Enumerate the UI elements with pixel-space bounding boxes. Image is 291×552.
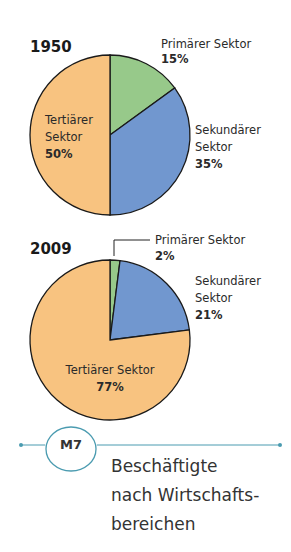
- label-tertiary-1950-line1: Tertiärer: [44, 113, 93, 127]
- pct-primary-2009: 2%: [155, 249, 175, 263]
- rule-dot-right: [278, 443, 282, 447]
- pie-slice-2009-sekund-rer-sektor: [110, 261, 189, 340]
- figure-caption: Beschäftigte nach Wirtschafts- bereichen: [111, 452, 259, 539]
- rule-dot-left: [19, 443, 23, 447]
- leader-line-primary-2009: [114, 240, 150, 256]
- label-secondary-2009-line2: Sektor: [195, 291, 233, 305]
- label-secondary-1950-line1: Sekundärer: [195, 123, 261, 137]
- pct-tertiary-2009: 77%: [96, 380, 124, 394]
- pct-secondary-2009: 21%: [195, 308, 223, 322]
- label-secondary-2009-line1: Sekundärer: [195, 274, 261, 288]
- caption-line-1: Beschäftigte: [111, 452, 259, 481]
- label-tertiary-2009: Tertiärer Sektor: [65, 363, 155, 377]
- label-tertiary-1950-line2: Sektor: [45, 130, 83, 144]
- pct-primary-1950: 15%: [161, 52, 189, 66]
- caption-line-2: nach Wirtschafts-: [111, 481, 259, 510]
- label-primary-2009: Primärer Sektor: [155, 233, 245, 247]
- pie-title-1950: 1950: [30, 38, 72, 56]
- pct-tertiary-1950: 50%: [45, 147, 73, 161]
- label-secondary-1950-line2: Sektor: [195, 140, 233, 154]
- pie-title-2009: 2009: [30, 240, 72, 258]
- caption-line-3: bereichen: [111, 510, 259, 539]
- pct-secondary-1950: 35%: [195, 157, 223, 171]
- pie-2009: [30, 260, 190, 420]
- label-primary-1950: Primärer Sektor: [161, 37, 251, 51]
- m7-badge-label: M7: [60, 437, 82, 452]
